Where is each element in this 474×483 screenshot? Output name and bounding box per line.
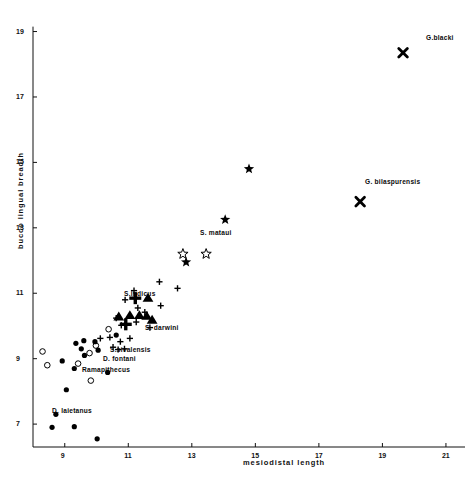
y-tick-label: 7	[16, 420, 20, 427]
point-label: D. fontani	[103, 355, 136, 362]
point-label: Ramapithecus	[82, 366, 130, 373]
y-tick-label: 15	[16, 158, 24, 165]
data-markers-group	[40, 49, 408, 442]
data-point-filled-star	[244, 164, 254, 174]
data-point-plus	[174, 285, 180, 291]
data-point-open-circle	[106, 326, 112, 332]
y-tick-label: 17	[16, 93, 24, 100]
data-point-open-circle	[88, 378, 94, 384]
data-point-bold-x	[356, 197, 365, 206]
data-point-filled-triangle	[124, 310, 135, 319]
data-point-filled-circle	[49, 425, 54, 430]
y-tick-label: 13	[16, 224, 24, 231]
data-point-bold-x	[399, 49, 408, 58]
data-point-open-circle	[75, 361, 81, 367]
data-point-filled-circle	[72, 366, 77, 371]
data-point-filled-circle	[72, 424, 77, 429]
data-point-filled-circle	[79, 346, 84, 351]
x-tick-label: 15	[251, 452, 259, 459]
data-point-open-circle	[87, 350, 93, 356]
data-point-plus	[133, 319, 139, 325]
y-tick-label: 9	[16, 355, 20, 362]
data-point-plus	[135, 305, 141, 311]
data-point-filled-circle	[60, 358, 65, 363]
point-label: G. bilaspurensis	[365, 178, 420, 185]
data-point-open-star	[201, 249, 211, 259]
data-point-plus	[107, 334, 113, 340]
data-point-filled-circle	[114, 333, 119, 338]
point-label: S. mataui	[200, 229, 232, 236]
data-point-open-circle	[40, 349, 46, 355]
data-point-plus	[117, 339, 123, 345]
data-point-open-star	[178, 249, 188, 259]
x-tick-label: 17	[315, 452, 323, 459]
data-point-plus	[156, 279, 162, 285]
x-tick-label: 9	[61, 452, 65, 459]
x-tick-label: 13	[188, 452, 196, 459]
data-point-filled-triangle	[113, 312, 124, 321]
x-tick-label: 19	[378, 452, 386, 459]
data-point-filled-circle	[73, 341, 78, 346]
scatter-plot-figure: mesiodistal length bucco lingual breadth…	[0, 0, 474, 483]
point-label: S.sivalensis	[110, 346, 151, 353]
y-tick-label: 11	[16, 289, 23, 296]
data-point-open-circle	[44, 362, 50, 368]
data-point-plus	[97, 335, 103, 341]
point-label: S.indicus	[124, 290, 156, 297]
data-point-filled-circle	[81, 338, 86, 343]
axes-group	[33, 27, 465, 447]
x-tick-label: 11	[124, 452, 131, 459]
point-label: D. laietanus	[52, 407, 92, 414]
point-label: S. darwini	[145, 324, 179, 331]
data-point-filled-star	[220, 214, 230, 224]
data-point-plus	[122, 297, 128, 303]
x-tick-label: 21	[442, 452, 450, 459]
y-tick-label: 19	[16, 28, 24, 35]
data-point-filled-circle	[64, 387, 69, 392]
x-axis-title: mesiodistal length	[243, 458, 325, 467]
point-label: G.blacki	[426, 34, 454, 41]
data-point-plus	[158, 303, 164, 309]
data-point-plus	[127, 335, 133, 341]
y-axis-title: bucco lingual breadth	[16, 151, 25, 251]
data-point-filled-circle	[95, 436, 100, 441]
